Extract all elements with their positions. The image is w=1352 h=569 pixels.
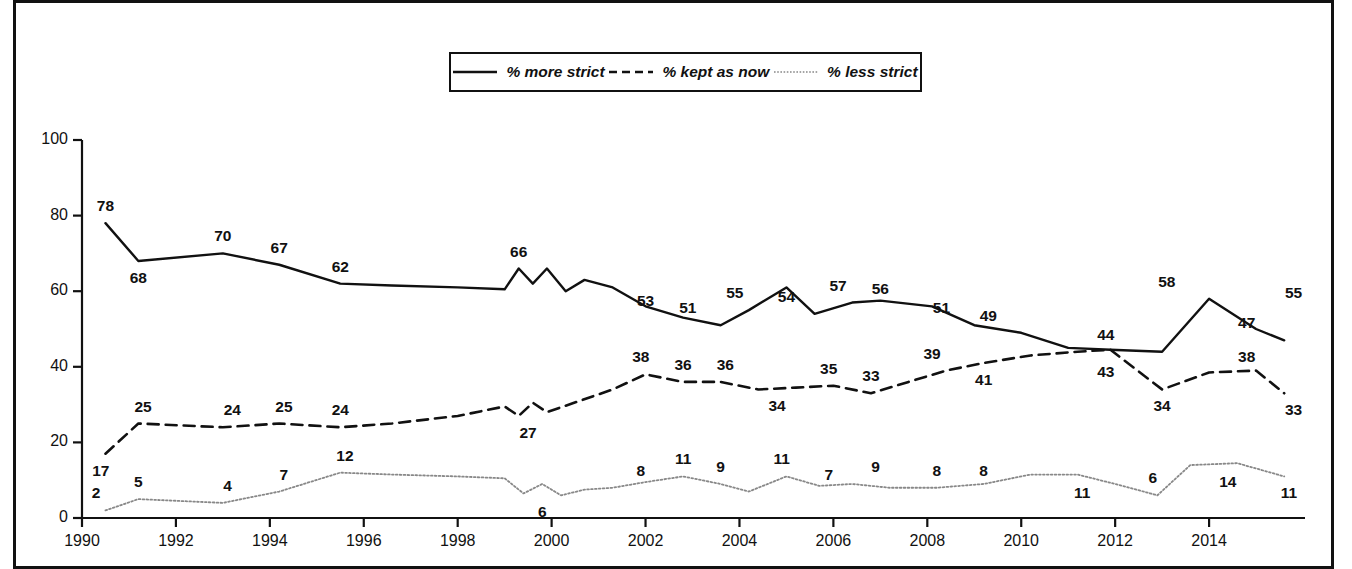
data-point-label: 78 bbox=[88, 197, 122, 215]
data-point-label: 55 bbox=[718, 284, 752, 302]
data-point-label: 62 bbox=[323, 258, 357, 276]
data-point-label: 12 bbox=[328, 447, 362, 465]
x-axis-tick-label: 2010 bbox=[986, 532, 1056, 550]
data-point-label: 11 bbox=[1272, 484, 1306, 502]
data-point-label: 27 bbox=[511, 424, 545, 442]
x-axis-tick-label: 2014 bbox=[1174, 532, 1244, 550]
data-point-label: 6 bbox=[1136, 469, 1170, 487]
y-axis-tick-label: 100 bbox=[22, 130, 68, 148]
data-point-label: 34 bbox=[1145, 397, 1179, 415]
data-point-label: 34 bbox=[760, 397, 794, 415]
data-point-label: 4 bbox=[211, 477, 245, 495]
x-axis-tick-label: 2012 bbox=[1080, 532, 1150, 550]
chart-page: % more strict % kept as now % less stric… bbox=[0, 0, 1352, 569]
x-axis-tick-label: 2004 bbox=[704, 532, 774, 550]
data-point-label: 8 bbox=[920, 462, 954, 480]
y-axis-tick-label: 80 bbox=[22, 206, 68, 224]
data-point-label: 9 bbox=[859, 458, 893, 476]
data-point-label: 47 bbox=[1230, 314, 1264, 332]
y-axis-tick-label: 20 bbox=[22, 432, 68, 450]
x-axis-tick-label: 2002 bbox=[611, 532, 681, 550]
data-point-label: 25 bbox=[126, 398, 160, 416]
data-point-label: 57 bbox=[821, 277, 855, 295]
data-point-label: 33 bbox=[854, 367, 888, 385]
data-point-label: 7 bbox=[267, 466, 301, 484]
data-point-label: 51 bbox=[671, 299, 705, 317]
x-axis-tick-label: 1992 bbox=[141, 532, 211, 550]
data-point-label: 25 bbox=[267, 398, 301, 416]
data-point-label: 9 bbox=[704, 458, 738, 476]
data-point-label: 11 bbox=[765, 450, 799, 468]
data-point-label: 66 bbox=[502, 243, 536, 261]
data-point-label: 8 bbox=[967, 462, 1001, 480]
data-point-label: 8 bbox=[624, 462, 658, 480]
data-point-label: 35 bbox=[812, 360, 846, 378]
y-axis-tick-label: 60 bbox=[22, 281, 68, 299]
x-axis-tick-label: 2008 bbox=[892, 532, 962, 550]
data-point-label: 17 bbox=[84, 462, 118, 480]
data-point-label: 6 bbox=[525, 503, 559, 521]
x-axis-tick-label: 1998 bbox=[423, 532, 493, 550]
data-point-label: 41 bbox=[967, 371, 1001, 389]
data-point-label: 7 bbox=[812, 466, 846, 484]
data-point-label: 49 bbox=[971, 307, 1005, 325]
data-point-label: 5 bbox=[121, 473, 155, 491]
data-point-label: 39 bbox=[915, 345, 949, 363]
data-point-label: 44 bbox=[1089, 326, 1123, 344]
data-point-label: 55 bbox=[1277, 284, 1311, 302]
x-axis-tick-label: 1990 bbox=[47, 532, 117, 550]
y-axis-tick-label: 40 bbox=[22, 357, 68, 375]
y-axis-tick-label: 0 bbox=[22, 508, 68, 526]
data-point-label: 70 bbox=[206, 227, 240, 245]
x-axis-tick-label: 2000 bbox=[517, 532, 587, 550]
x-axis-tick-label: 2006 bbox=[798, 532, 868, 550]
data-point-label: 24 bbox=[215, 401, 249, 419]
data-point-label: 24 bbox=[323, 401, 357, 419]
data-point-label: 14 bbox=[1211, 473, 1245, 491]
data-point-label: 2 bbox=[79, 484, 113, 502]
data-point-label: 36 bbox=[708, 356, 742, 374]
data-point-label: 11 bbox=[1065, 484, 1099, 502]
data-point-label: 68 bbox=[121, 269, 155, 287]
data-point-label: 38 bbox=[624, 348, 658, 366]
data-point-label: 33 bbox=[1277, 401, 1311, 419]
data-point-label: 58 bbox=[1150, 273, 1184, 291]
data-point-label: 11 bbox=[666, 450, 700, 468]
data-point-label: 51 bbox=[924, 299, 958, 317]
data-point-label: 53 bbox=[629, 292, 663, 310]
data-point-label: 67 bbox=[262, 239, 296, 257]
data-point-label: 56 bbox=[863, 280, 897, 298]
x-axis-tick-label: 1994 bbox=[235, 532, 305, 550]
x-axis-tick-label: 1996 bbox=[329, 532, 399, 550]
data-point-label: 54 bbox=[769, 288, 803, 306]
data-point-label: 38 bbox=[1230, 348, 1264, 366]
data-point-label: 43 bbox=[1089, 363, 1123, 381]
data-point-label: 36 bbox=[666, 356, 700, 374]
